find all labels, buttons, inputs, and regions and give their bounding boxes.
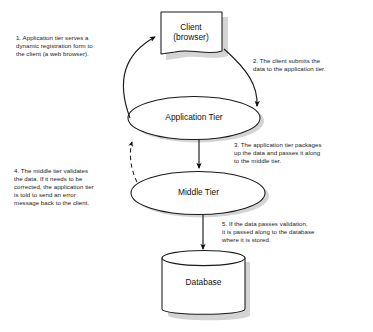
database-label: Database [162, 277, 245, 287]
step-note-4: 4. The middle tier validates the data. I… [14, 167, 136, 207]
step-note-1: 1. Application tier serves a dynamic reg… [16, 34, 138, 58]
diagram-canvas: Client (browser) Application Tier Middle… [0, 0, 373, 332]
step-note-3: 3. The application tier packages up the … [234, 141, 373, 165]
application-tier-label: Application Tier [128, 112, 260, 122]
step-note-5: 5. If the data passes validation, it is … [222, 220, 372, 244]
step-note-2: 2. The client submits the data to the ap… [253, 57, 371, 73]
middle-tier-label: Middle Tier [132, 187, 265, 197]
client-label: Client (browser) [160, 22, 222, 43]
